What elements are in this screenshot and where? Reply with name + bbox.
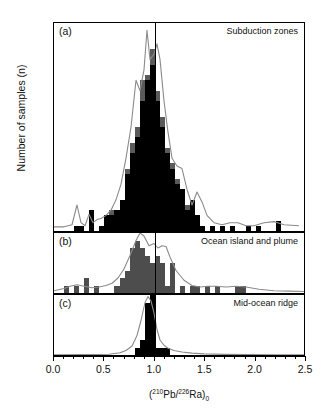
x-tick-minor [194,356,195,359]
x-tick-minor [234,356,235,359]
y-tick-major [53,127,54,128]
xlabel-mass-226: 226 [178,388,189,395]
y-axis-title: Number of samples (n) [15,33,27,203]
panel-subduction-zones: (a) Subduction zones 010203040 [53,22,305,232]
x-tick-minor [124,356,125,359]
panel-a-reference-line [155,23,156,231]
x-tick-minor [73,356,74,359]
y-tick-major [53,179,54,180]
x-tick-minor [63,356,64,359]
y-tick-minor [53,310,54,311]
x-tick-label: 2.0 [247,363,262,375]
x-tick-label: 1.5 [197,363,212,375]
x-tick-major [154,356,155,361]
panel-c-tag: (c) [59,297,71,309]
y-tick-minor [53,256,54,257]
figure-container: Number of samples (n) (a) Subduction zon… [0,0,323,410]
y-tick-minor [53,205,54,206]
y-tick-major [53,233,54,234]
y-tick-minor [53,333,54,334]
x-tick-minor [83,356,84,359]
y-tick-minor [53,153,54,154]
y-tick-major [53,23,54,24]
y-tick-minor [53,271,54,272]
xlabel-mass-210: 210 [152,388,163,395]
x-tick-label: 2.5 [298,363,313,375]
x-tick-minor [214,356,215,359]
x-tick-minor [265,356,266,359]
panel-a-plot-area [54,23,304,231]
panel-a-tag: (a) [59,25,72,37]
y-tick-minor [53,263,54,264]
y-tick-major [53,75,54,76]
panel-c-reference-line [155,295,156,355]
panel-b-title: Ocean island and plume [201,236,298,246]
x-tick-minor [174,356,175,359]
x-tick-major [53,356,54,361]
panel-b-reference-line [155,233,156,293]
x-tick-major [255,356,256,361]
x-axis-title: (210Pb/226Ra)0 [53,388,305,402]
panel-ocean-island-and-plume: (b) Ocean island and plume 08 [53,232,305,294]
panel-c-title: Mid-ocean ridge [233,298,298,308]
y-tick-minor [53,248,54,249]
x-tick-minor [134,356,135,359]
panel-a-density-curve [54,23,304,231]
x-tick-minor [295,356,296,359]
xlabel-subscript-zero: 0 [205,395,209,402]
density-polyline [54,30,299,227]
x-tick-minor [285,356,286,359]
y-tick-major [53,295,54,296]
panel-b-tag: (b) [59,235,72,247]
y-tick-minor [53,101,54,102]
y-tick-minor [53,278,54,279]
x-tick-major [204,356,205,361]
x-axis-line [53,356,305,357]
x-tick-major [305,356,306,361]
x-axis: 0.00.51.01.52.02.5 (210Pb/226Ra)0 [53,356,305,406]
y-tick-minor [53,241,54,242]
panel-a-title: Subduction zones [226,26,298,36]
xlabel-element-pb: Pb/ [163,389,178,400]
x-tick-label: 0.5 [96,363,111,375]
x-tick-minor [164,356,165,359]
x-tick-label: 1.0 [146,363,161,375]
x-tick-minor [224,356,225,359]
x-tick-minor [93,356,94,359]
x-tick-major [103,356,104,361]
y-tick-minor [53,325,54,326]
x-tick-minor [184,356,185,359]
y-tick-minor [53,49,54,50]
x-tick-minor [245,356,246,359]
x-tick-minor [113,356,114,359]
y-tick-minor [53,286,54,287]
x-tick-minor [144,356,145,359]
y-tick-minor [53,348,54,349]
x-tick-label: 0.0 [46,363,61,375]
xlabel-element-ra: Ra [189,389,202,400]
y-tick-minor [53,340,54,341]
y-tick-minor [53,318,54,319]
y-tick-minor [53,303,54,304]
x-tick-minor [275,356,276,359]
panel-mid-ocean-ridge: (c) Mid-ocean ridge 08 [53,294,305,356]
